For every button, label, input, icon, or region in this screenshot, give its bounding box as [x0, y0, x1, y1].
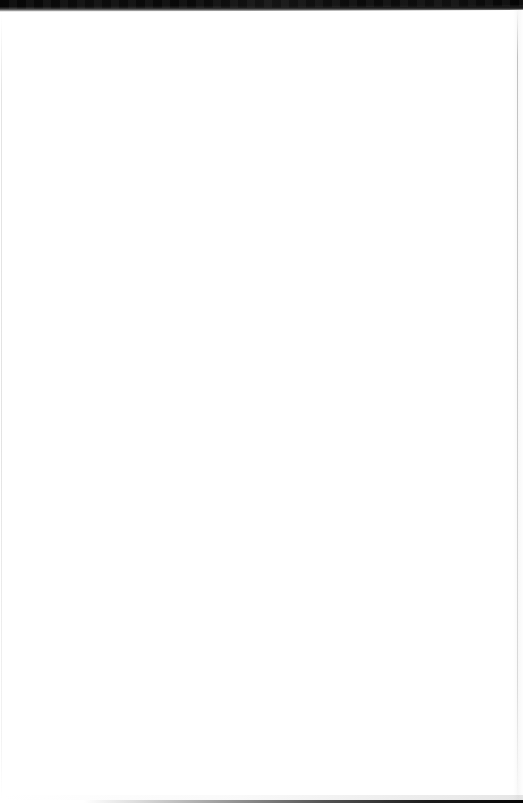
page-content-area: [40, 40, 483, 760]
left-edge-line: [1, 14, 2, 800]
right-edge-line: [517, 10, 518, 800]
scanned-page: [0, 0, 523, 806]
bottom-edge-line: [0, 800, 523, 803]
right-edge-wash: [513, 10, 523, 800]
